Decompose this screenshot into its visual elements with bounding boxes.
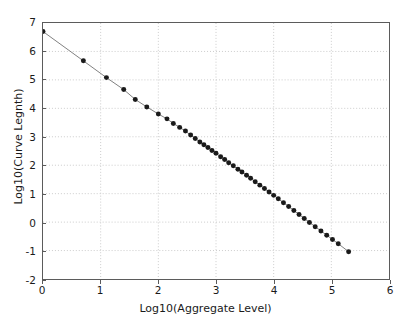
data-point-marker xyxy=(281,200,286,205)
data-point-marker xyxy=(218,154,223,159)
y-tick-label: -2 xyxy=(4,274,36,286)
data-point-marker xyxy=(297,212,302,217)
x-tick-mark xyxy=(332,280,333,284)
y-tick-mark xyxy=(42,165,46,166)
data-point-marker xyxy=(286,204,291,209)
y-tick-label: -1 xyxy=(4,245,36,257)
data-point-marker xyxy=(144,104,149,109)
y-tick-mark xyxy=(42,251,46,252)
data-point-marker xyxy=(193,136,198,141)
data-point-marker xyxy=(201,142,206,147)
data-point-marker xyxy=(336,241,341,246)
data-point-marker xyxy=(171,121,176,126)
data-point-marker xyxy=(205,145,210,150)
data-point-marker xyxy=(231,163,236,168)
data-point-marker xyxy=(262,186,267,191)
data-point-marker xyxy=(267,189,272,194)
data-point-marker xyxy=(104,75,109,80)
y-tick-mark xyxy=(42,223,46,224)
data-point-marker xyxy=(235,167,240,172)
data-point-marker xyxy=(313,224,318,229)
data-point-marker xyxy=(209,148,214,153)
data-point-marker xyxy=(188,133,193,138)
data-point-marker xyxy=(197,139,202,144)
data-point-marker xyxy=(164,116,169,121)
y-tick-mark xyxy=(42,194,46,195)
data-point-marker xyxy=(177,125,182,130)
x-axis-title: Log10(Aggregate Level) xyxy=(0,302,411,315)
data-point-marker xyxy=(222,157,227,162)
data-point-marker xyxy=(214,151,219,156)
data-point-marker xyxy=(156,112,161,117)
chart-figure: 76543210-1-2 0123456 Log10(Aggregate Lev… xyxy=(0,0,411,326)
x-tick-mark xyxy=(100,280,101,284)
y-tick-mark xyxy=(42,137,46,138)
data-point-marker xyxy=(183,129,188,134)
x-tick-label: 5 xyxy=(329,284,336,296)
x-tick-mark xyxy=(274,280,275,284)
y-tick-mark xyxy=(42,22,46,23)
x-tick-mark xyxy=(158,280,159,284)
data-point-marker xyxy=(276,196,281,201)
x-tick-label: 2 xyxy=(155,284,162,296)
x-tick-label: 1 xyxy=(97,284,104,296)
y-tick-label: 6 xyxy=(4,45,36,57)
data-point-marker xyxy=(81,58,86,63)
data-point-marker xyxy=(248,176,253,181)
data-point-marker xyxy=(318,228,323,233)
y-axis-title: Log10(Curve Legnth) xyxy=(12,67,25,227)
data-point-marker xyxy=(271,193,276,198)
data-point-marker xyxy=(307,220,312,225)
y-tick-label: 7 xyxy=(4,16,36,28)
data-point-marker xyxy=(121,87,126,92)
x-tick-label: 3 xyxy=(213,284,220,296)
data-series-layer xyxy=(43,23,389,279)
data-point-marker xyxy=(257,183,262,188)
data-point-marker xyxy=(302,216,307,221)
data-point-marker xyxy=(253,179,258,184)
data-point-marker xyxy=(291,208,296,213)
x-tick-label: 0 xyxy=(39,284,46,296)
data-point-marker xyxy=(244,173,249,178)
plot-area xyxy=(42,22,390,280)
x-tick-mark xyxy=(42,280,43,284)
x-tick-label: 4 xyxy=(271,284,278,296)
data-point-marker xyxy=(346,249,351,254)
x-tick-mark xyxy=(390,280,391,284)
data-point-marker xyxy=(330,237,335,242)
data-point-marker xyxy=(226,160,231,165)
y-tick-mark xyxy=(42,79,46,80)
x-tick-label: 6 xyxy=(387,284,394,296)
data-point-marker xyxy=(133,97,138,102)
data-point-marker xyxy=(239,170,244,175)
y-tick-mark xyxy=(42,108,46,109)
data-point-marker xyxy=(324,233,329,238)
y-tick-mark xyxy=(42,51,46,52)
x-tick-mark xyxy=(216,280,217,284)
